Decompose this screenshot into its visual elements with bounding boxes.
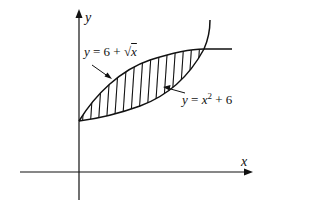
- sqrt-curve-label: y = 6 + √x: [84, 45, 137, 58]
- x-axis-arrow-icon: [244, 169, 253, 176]
- sqrt-curve: [79, 49, 232, 121]
- x-axis-label: x: [241, 155, 247, 169]
- square-pointer-arrowhead-icon: [163, 85, 171, 91]
- y-axis-arrow-icon: [76, 9, 83, 18]
- square-curve-label: y = x2 + 6: [182, 93, 232, 106]
- sqrt-label-x: x: [131, 44, 137, 59]
- square-label-exponent: 2: [207, 91, 212, 101]
- sqrt-label-eq: = 6 +: [90, 44, 124, 59]
- square-label-rest: + 6: [212, 92, 232, 107]
- y-axis-label: y: [85, 11, 91, 25]
- sqrt-pointer-arrowhead-icon: [105, 73, 113, 80]
- square-label-eq: =: [188, 92, 202, 107]
